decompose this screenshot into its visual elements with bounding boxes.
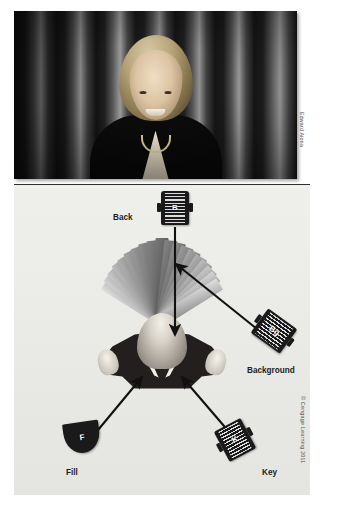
photo-vignette <box>14 11 297 179</box>
back-light-lug-left <box>157 203 161 212</box>
back-light-body: B <box>161 191 189 225</box>
fill-light-caption: Fill <box>66 468 78 477</box>
back-light-lug-right <box>189 203 193 212</box>
lighting-diagram: B Back Bg Background F Fill K Key <box>14 185 310 495</box>
fill-light-abbr: F <box>79 433 85 442</box>
light-fixture-back[interactable]: B <box>161 191 189 225</box>
photo-credit: Edward Aiona <box>299 112 305 182</box>
back-light-caption: Back <box>113 213 133 222</box>
portrait-photo <box>14 11 297 179</box>
light-fixture-fill[interactable]: F <box>64 422 100 453</box>
background-light-caption: Background <box>247 366 295 375</box>
copyright-notice: © Cengage Learning 2011 <box>300 396 306 488</box>
fill-light-body: F <box>62 420 102 456</box>
back-light-abbr: B <box>172 204 178 212</box>
key-light-caption: Key <box>262 468 277 477</box>
